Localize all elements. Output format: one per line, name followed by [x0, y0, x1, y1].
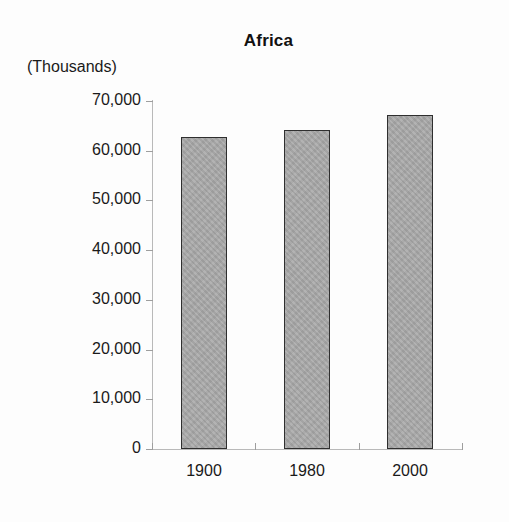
- y-tick-label: 60,000: [33, 141, 141, 159]
- y-axis-line: [152, 100, 153, 450]
- y-tick-label: 70,000: [33, 91, 141, 109]
- y-tick-mark: [146, 200, 153, 201]
- x-tick-mark: [359, 443, 360, 450]
- y-tick-label: 10,000: [33, 389, 141, 407]
- y-tick-mark: [146, 399, 153, 400]
- y-tick-label: 20,000: [33, 340, 141, 358]
- bar-1900: [181, 137, 227, 449]
- y-tick-mark: [146, 300, 153, 301]
- x-tick-label-2000: 2000: [365, 462, 455, 480]
- x-tick-mark: [462, 443, 463, 450]
- bar-1980: [284, 130, 330, 449]
- bar-chart-figure: Africa (Thousands) 010,00020,00030,00040…: [0, 0, 509, 522]
- x-tick-label-1980: 1980: [262, 462, 352, 480]
- y-tick-mark: [146, 250, 153, 251]
- y-tick-mark: [146, 151, 153, 152]
- y-tick-label: 30,000: [33, 290, 141, 308]
- plot-area: 010,00020,00030,00040,00050,00060,00070,…: [0, 0, 509, 522]
- x-tick-mark: [255, 443, 256, 450]
- y-tick-label: 40,000: [33, 240, 141, 258]
- y-tick-mark: [146, 350, 153, 351]
- x-tick-label-1900: 1900: [159, 462, 249, 480]
- x-axis-line: [152, 449, 462, 450]
- bar-2000: [387, 115, 433, 449]
- y-tick-mark: [146, 101, 153, 102]
- x-tick-mark: [152, 443, 153, 450]
- y-tick-label: 0: [33, 439, 141, 457]
- y-tick-label: 50,000: [33, 190, 141, 208]
